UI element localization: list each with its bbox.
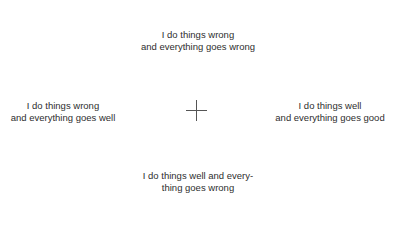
quadrant-top-line1: I do things wrong: [138, 29, 258, 41]
quadrant-left-line2: and everything goes well: [2, 112, 124, 124]
quadrant-right-line2: and everything goes good: [265, 112, 395, 124]
quadrant-bottom-line2: thing goes wrong: [132, 182, 264, 194]
quadrant-left-line1: I do things wrong: [2, 100, 124, 112]
quadrant-right-line1: I do things well: [265, 100, 395, 112]
quadrant-bottom-label: I do things well and every- thing goes w…: [132, 170, 264, 194]
quadrant-top-line2: and everything goes wrong: [138, 41, 258, 53]
quadrant-left-label: I do things wrong and everything goes we…: [2, 100, 124, 124]
quadrant-top-label: I do things wrong and everything goes wr…: [138, 29, 258, 53]
quadrant-bottom-line1: I do things well and every-: [132, 170, 264, 182]
crosshair-vertical-line: [196, 100, 197, 121]
quadrant-right-label: I do things well and everything goes goo…: [265, 100, 395, 124]
